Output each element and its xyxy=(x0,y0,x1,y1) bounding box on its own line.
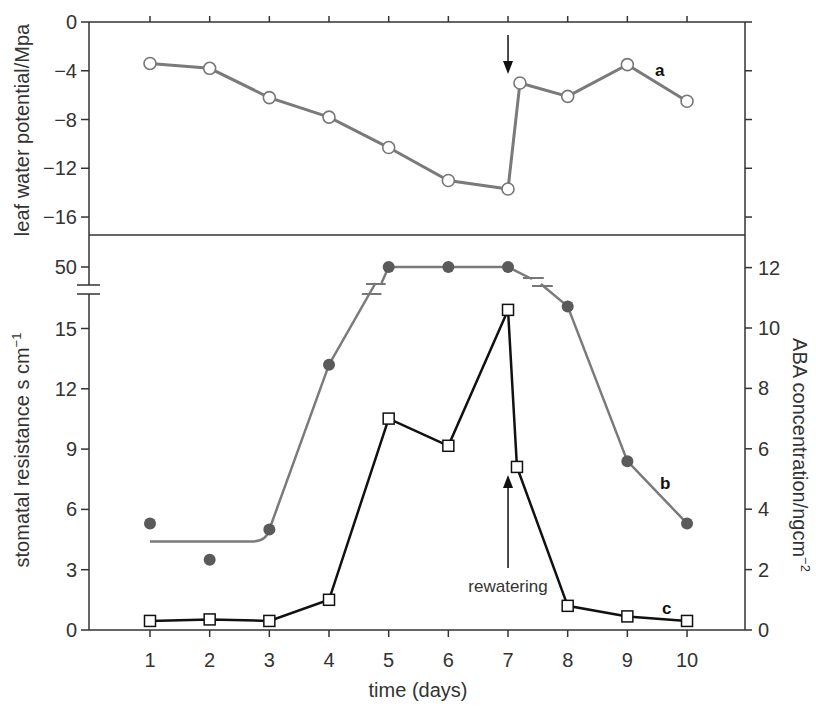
series-a-point xyxy=(204,62,216,74)
right-y-axis-label-sup: −2 xyxy=(798,557,813,572)
series-c-line xyxy=(150,310,687,621)
series-a-point xyxy=(442,174,454,186)
left-y-tick-label: 12 xyxy=(55,378,77,400)
series-c-point xyxy=(511,461,522,472)
axes xyxy=(77,22,745,630)
top-y-tick-label: −4 xyxy=(54,60,77,82)
rewatering-label: rewatering xyxy=(468,577,547,596)
series-b-label: b xyxy=(660,474,670,493)
arrow-up-head-icon xyxy=(503,475,513,488)
left-y-tick-label: 6 xyxy=(66,498,77,520)
x-axis-label: time (days) xyxy=(369,679,468,701)
series-c-point xyxy=(145,615,156,626)
chart: 0−4−8−12−16 0369121550 024681012 1234567… xyxy=(0,0,816,712)
series-b-point xyxy=(144,517,156,529)
top-y-axis-label: leaf water potential/Mpa xyxy=(11,23,33,236)
series-b-point xyxy=(442,261,454,273)
series-b-point xyxy=(681,517,693,529)
series-b-point xyxy=(323,359,335,371)
left-y-axis-label: stomatal resistance s cm−1 xyxy=(9,333,33,568)
right-y-tick-label: 0 xyxy=(758,619,769,641)
series-a-point xyxy=(562,90,574,102)
series-c-point xyxy=(443,440,454,451)
series-a-point xyxy=(681,95,693,107)
right-y-axis-label: ABA concentration/ngcm−2 xyxy=(789,338,813,572)
x-tick-label: 1 xyxy=(144,649,155,671)
x-tick-label: 6 xyxy=(443,649,454,671)
left-y-tick-label: 3 xyxy=(66,559,77,581)
series-c-point xyxy=(383,413,394,424)
left-y-axis-label-sup: −1 xyxy=(9,333,24,348)
top-y-tick-label: −12 xyxy=(43,157,77,179)
annotations xyxy=(503,35,513,568)
series-b-line xyxy=(150,267,687,542)
series-c xyxy=(145,304,693,626)
x-tick-label: 2 xyxy=(204,649,215,671)
right-y-tick-label: 2 xyxy=(758,559,769,581)
left-y-ticks: 0369121550 xyxy=(55,256,89,641)
top-y-tick-label: 0 xyxy=(66,11,77,33)
arrow-down-head-icon xyxy=(503,61,513,74)
right-y-tick-label: 8 xyxy=(758,377,769,399)
series-a-line xyxy=(150,63,687,189)
right-y-axis-label-main: ABA concentration/ngcm xyxy=(789,338,811,557)
series-c-point xyxy=(204,614,215,625)
series-a-point xyxy=(502,183,514,195)
left-y-tick-label: 50 xyxy=(55,256,77,278)
series-c-point xyxy=(324,594,335,605)
series-b-point xyxy=(562,300,574,312)
x-tick-label: 10 xyxy=(676,649,698,671)
x-tick-label: 8 xyxy=(562,649,573,671)
x-tick-label: 9 xyxy=(622,649,633,671)
series-a-point xyxy=(621,59,633,71)
x-ticks: 12345678910 xyxy=(144,630,698,671)
top-y-tick-label: −16 xyxy=(43,206,77,228)
series-b-point xyxy=(383,261,395,273)
x-tick-label: 4 xyxy=(323,649,334,671)
series-b-point xyxy=(621,455,633,467)
right-y-tick-label: 4 xyxy=(758,498,769,520)
series-c-point xyxy=(622,611,633,622)
left-y-tick-label: 9 xyxy=(66,438,77,460)
series-a-point xyxy=(383,142,395,154)
series-c-label: c xyxy=(662,599,671,618)
left-y-tick-label: 15 xyxy=(55,318,77,340)
right-y-tick-label: 10 xyxy=(758,317,780,339)
right-y-tick-label: 6 xyxy=(758,438,769,460)
top-y-tick-label: −8 xyxy=(54,109,77,131)
top-y-ticks: 0−4−8−12−16 xyxy=(43,11,752,228)
series-c-point xyxy=(682,615,693,626)
series-b-point xyxy=(502,261,514,273)
series-b-point xyxy=(263,524,275,536)
series-b-point xyxy=(204,554,216,566)
right-y-tick-label: 12 xyxy=(758,257,780,279)
series-b xyxy=(144,261,693,566)
x-tick-label: 5 xyxy=(383,649,394,671)
series-a-label: a xyxy=(655,61,665,80)
series-c-point xyxy=(562,600,573,611)
series-a xyxy=(144,57,693,195)
series-a-point xyxy=(144,57,156,69)
series-a-point xyxy=(323,111,335,123)
x-tick-label: 7 xyxy=(502,649,513,671)
left-y-axis-label-main: stomatal resistance s cm xyxy=(11,347,33,567)
left-y-tick-label: 0 xyxy=(66,619,77,641)
x-tick-label: 3 xyxy=(264,649,275,671)
series-c-point xyxy=(264,615,275,626)
series-a-point xyxy=(514,77,526,89)
right-y-ticks: 024681012 xyxy=(745,257,780,641)
series-c-point xyxy=(503,304,514,315)
series-a-point xyxy=(263,92,275,104)
